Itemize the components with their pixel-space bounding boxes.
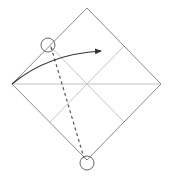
crease-lines <box>12 46 161 122</box>
reference-circle-top-icon <box>41 38 55 52</box>
reference-circle-bottom-icon <box>80 156 94 170</box>
fold-direction-arrow-icon <box>12 51 101 84</box>
origami-diagram: Square paper rotated as a diamond with c… <box>0 0 173 176</box>
diagram-canvas <box>0 0 173 176</box>
